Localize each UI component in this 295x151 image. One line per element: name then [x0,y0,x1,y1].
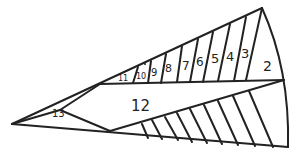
hatch-6 [204,105,222,144]
outer-right-arc [262,8,288,147]
hatch-5 [190,109,207,143]
region-label-12: 12 [131,97,150,115]
region-label-9: 9 [151,67,157,78]
region-13-upper-line [60,84,100,110]
hatch-7 [218,101,238,145]
region-label-11: 11 [118,74,128,83]
region-label-3: 3 [241,46,249,61]
region-label-10: 10 [136,72,146,81]
region-label-4: 4 [226,49,234,64]
region-label-2: 2 [263,58,272,74]
diagram-svg: 2 3 4 5 6 7 8 9 10 11 12 13 [0,0,295,151]
hatch-8 [233,96,255,146]
region-label-5: 5 [211,51,219,66]
region-label-7: 7 [182,59,190,73]
region-label-13: 13 [52,108,65,119]
region-label-6: 6 [196,55,204,69]
region-label-8: 8 [165,62,172,75]
region-2-border [246,8,262,80]
dissection-puzzle-diagram: 2 3 4 5 6 7 8 9 10 11 12 13 [0,0,295,151]
